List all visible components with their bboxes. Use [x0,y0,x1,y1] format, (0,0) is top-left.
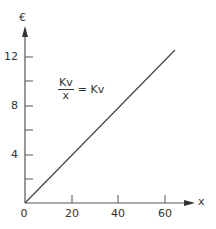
formula-rhs: = Kv [78,83,104,96]
y-axis-arrow-icon [22,26,28,37]
x-ticks [72,195,165,203]
chart-canvas [0,0,216,229]
y-axis-label: € [19,12,26,23]
series-line [25,50,175,203]
formula-annotation: Kv x = Kv [58,77,104,101]
x-axis-arrow-icon [184,200,195,206]
x-axis-label: x [198,196,205,207]
formula-fraction: Kv x [58,77,74,101]
formula-numerator: Kv [58,77,74,90]
x-tick-label-40: 40 [106,208,130,219]
x-tick-label-20: 20 [60,208,84,219]
y-tick-label-4: 4 [0,149,18,160]
y-tick-label-8: 8 [0,100,18,111]
x-tick-label-0: 0 [12,208,36,219]
formula-denominator: x [63,90,70,102]
x-tick-label-60: 60 [153,208,177,219]
y-tick-label-12: 12 [0,51,18,62]
y-ticks [25,57,33,179]
